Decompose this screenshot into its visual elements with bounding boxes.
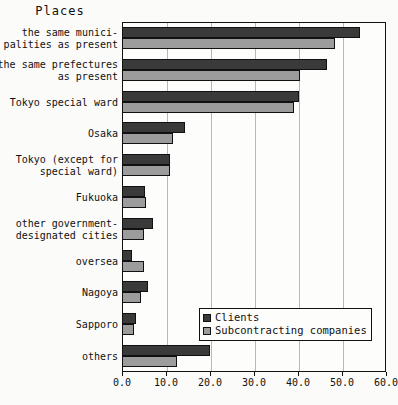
bar-clients [122, 281, 148, 292]
bar-clients [122, 59, 327, 70]
x-tick-mark [254, 372, 255, 376]
category-label: Fukuoka [76, 192, 118, 204]
legend-label-subcontracting-companies: Subcontracting companies [215, 325, 367, 336]
category-label: Tokyo (except for special ward) [16, 154, 118, 178]
bar-subcontracting [122, 102, 294, 113]
bar-subcontracting [122, 165, 170, 176]
legend-swatch-clients-icon [203, 314, 211, 322]
x-tick-mark [122, 372, 123, 376]
legend-item-clients: Clients [203, 311, 367, 324]
legend-item-subcontracting-companies: Subcontracting companies [203, 324, 367, 337]
bar-subcontracting [122, 261, 144, 272]
bar-subcontracting [122, 292, 141, 303]
chart-legend: Clients Subcontracting companies [199, 308, 372, 341]
bar-clients [122, 313, 136, 324]
category-label: Nagoya [82, 287, 118, 299]
category-label: Osaka [88, 128, 118, 140]
x-tick-label: 30.0 [242, 377, 266, 388]
category-label: Sapporo [76, 319, 118, 331]
x-tick-mark [386, 372, 387, 376]
bar-subcontracting [122, 70, 300, 81]
x-tick-label: 40.0 [286, 377, 310, 388]
category-labels: the same munici- palities as presentthe … [0, 22, 120, 372]
bar-subcontracting [122, 197, 146, 208]
bar-subcontracting [122, 324, 134, 335]
bar-clients [122, 345, 210, 356]
category-label: Tokyo special ward [10, 97, 118, 109]
x-tick-label: 0.0 [113, 377, 131, 388]
category-label: the same prefectures as present [0, 59, 118, 83]
x-tick-label: 50.0 [330, 377, 354, 388]
bar-subcontracting [122, 133, 173, 144]
bar-clients [122, 186, 145, 197]
category-label: others [82, 351, 118, 363]
bar-subcontracting [122, 356, 177, 367]
x-tick-mark [210, 372, 211, 376]
bar-clients [122, 218, 153, 229]
bar-subcontracting [122, 229, 144, 240]
x-tick-label: 60.0 [374, 377, 398, 388]
x-tick-label: 10.0 [154, 377, 178, 388]
category-label: the same munici- palities as present [4, 27, 118, 51]
category-label: oversea [76, 256, 118, 268]
x-tick-mark [342, 372, 343, 376]
x-axis: 0.010.020.030.040.050.060.0 [122, 372, 386, 396]
x-tick-mark [166, 372, 167, 376]
x-tick-label: 20.0 [198, 377, 222, 388]
legend-swatch-subcontracting-icon [203, 327, 211, 335]
x-tick-mark [298, 372, 299, 376]
chart-title: Places [0, 4, 120, 18]
bar-clients [122, 122, 185, 133]
legend-label-clients: Clients [215, 312, 259, 323]
bar-clients [122, 91, 299, 102]
bar-subcontracting [122, 38, 335, 49]
category-label: other government- designated cities [16, 218, 118, 242]
bar-clients [122, 250, 132, 261]
bar-clients [122, 27, 360, 38]
bar-clients [122, 154, 170, 165]
